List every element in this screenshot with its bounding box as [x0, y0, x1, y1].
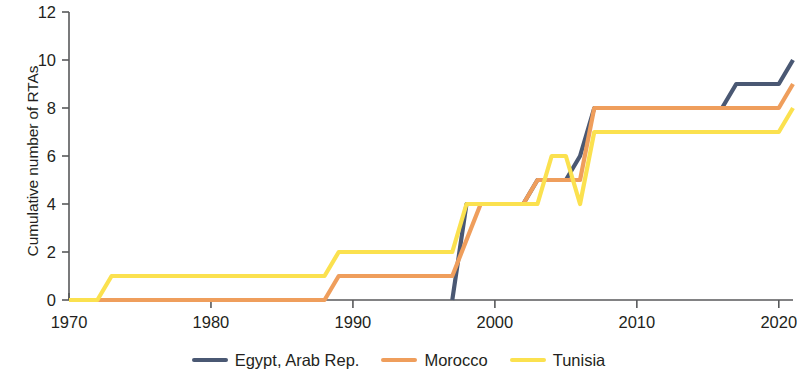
series-line — [69, 84, 793, 300]
legend-label: Tunisia — [553, 352, 606, 369]
x-tick-label: 1970 — [51, 313, 88, 331]
y-tick-label: 6 — [47, 147, 56, 165]
legend-item[interactable]: Tunisia — [510, 352, 606, 369]
x-tick-label: 2010 — [618, 313, 655, 331]
legend-label: Egypt, Arab Rep. — [235, 352, 360, 369]
chart-legend: Egypt, Arab Rep.MoroccoTunisia — [0, 352, 797, 369]
chart-series-group — [69, 60, 793, 300]
series-line — [69, 108, 793, 300]
y-tick-label: 12 — [38, 3, 56, 21]
y-tick-label: 0 — [47, 291, 56, 309]
x-tick-label: 1980 — [193, 313, 230, 331]
y-tick-label: 10 — [38, 51, 56, 69]
legend-swatch-icon — [381, 358, 417, 362]
y-tick-label: 4 — [47, 195, 56, 213]
legend-swatch-icon — [510, 358, 546, 362]
chart-container: Cumulative number of RTAs 024681012 1970… — [0, 0, 797, 384]
line-chart-plot: 024681012 197019801990200020102020 — [0, 0, 797, 384]
legend-item[interactable]: Morocco — [381, 352, 487, 369]
x-tick-label: 2020 — [760, 313, 797, 331]
legend-label: Morocco — [424, 352, 487, 369]
x-tick-label: 1990 — [335, 313, 372, 331]
y-tick-label: 2 — [47, 243, 56, 261]
legend-swatch-icon — [192, 358, 228, 362]
y-axis: 024681012 — [38, 3, 69, 309]
x-tick-label: 2000 — [477, 313, 514, 331]
legend-item[interactable]: Egypt, Arab Rep. — [192, 352, 360, 369]
y-tick-label: 8 — [47, 99, 56, 117]
series-line — [452, 60, 793, 300]
